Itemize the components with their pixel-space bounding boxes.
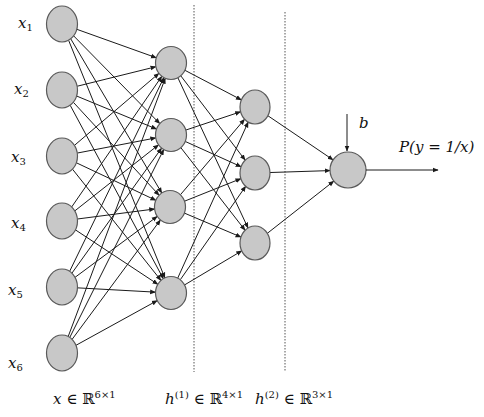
input-node-6 (47, 335, 78, 371)
input-label-x1: x1 (18, 16, 33, 33)
connection-arrow (72, 220, 160, 339)
connection-arrow (70, 78, 164, 272)
neural-network-diagram (0, 0, 484, 417)
hidden1-node-3 (155, 191, 186, 224)
neuron-nodes (47, 6, 367, 371)
connection-arrow (181, 76, 245, 160)
hidden1-node-4 (156, 277, 187, 310)
input-label-x3: x3 (11, 150, 26, 167)
connection-arrow (267, 181, 334, 233)
connection-arrow (72, 76, 162, 207)
hidden2-node-1 (240, 90, 270, 124)
connection-arrow (270, 171, 330, 173)
connection-arrow (185, 70, 241, 100)
bias-label: b (359, 116, 369, 131)
connection-arrow (69, 40, 165, 278)
connection-arrow (75, 145, 159, 211)
layer-dividers (194, 5, 285, 372)
connection-arrow (76, 301, 157, 346)
connection-arrow (77, 288, 155, 292)
input-label-x4: x4 (11, 216, 26, 233)
input-node-3 (47, 138, 78, 174)
connection-arrow (74, 36, 160, 124)
hidden1-node-1 (156, 47, 187, 80)
hidden2-dimension-label: h(2) ∈ ℝ3×1 (255, 390, 333, 407)
hidden1-dimension-label: h(1) ∈ ℝ4×1 (165, 390, 243, 407)
connection-arrow (181, 148, 245, 231)
connection-arrow (77, 29, 156, 57)
connection-arrow (70, 105, 163, 278)
connection-arrow (186, 112, 241, 130)
output-probability-label: P(y = 1/x) (399, 140, 474, 155)
connection-arrow (185, 251, 242, 285)
connection-arrow (75, 216, 157, 277)
connection-arrow (71, 39, 162, 193)
input-node-2 (47, 72, 78, 108)
input-dimension-label: x ∈ ℝ6×1 (53, 390, 116, 407)
connection-arrow (185, 141, 241, 166)
input-node-1 (47, 6, 78, 42)
input-label-x2: x2 (14, 82, 29, 99)
connection-arrow (178, 78, 248, 228)
input-label-x5: x5 (8, 283, 23, 300)
connection-arrow (76, 163, 155, 201)
connection-arrow (185, 179, 241, 202)
connection-arrow (180, 119, 244, 195)
hidden2-node-3 (240, 226, 270, 260)
input-node-4 (47, 203, 78, 239)
hidden1-node-2 (156, 119, 187, 152)
input-node-5 (47, 269, 78, 305)
input-label-x6: x6 (8, 356, 23, 373)
connection-edges (68, 29, 334, 345)
connection-arrow (268, 116, 333, 160)
hidden2-node-2 (240, 156, 270, 190)
output-node-1 (330, 152, 366, 188)
connection-arrow (75, 230, 157, 284)
